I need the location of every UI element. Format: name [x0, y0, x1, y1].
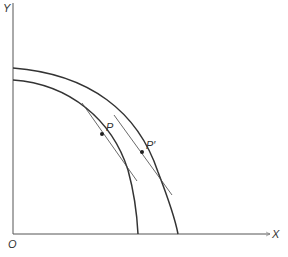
point-p-dot — [100, 132, 104, 136]
origin-label: O — [8, 239, 17, 250]
outer-frontier-curve — [13, 68, 178, 234]
diagram-canvas — [0, 0, 288, 257]
y-axis-label: Y — [3, 3, 10, 14]
x-axis-label: X — [272, 229, 279, 240]
point-p-prime-label: P′ — [146, 140, 155, 151]
point-p-prime-dot — [140, 150, 144, 154]
inner-frontier-curve — [13, 80, 138, 234]
tangent-at-p — [82, 103, 137, 181]
point-p-label: P — [106, 122, 113, 133]
